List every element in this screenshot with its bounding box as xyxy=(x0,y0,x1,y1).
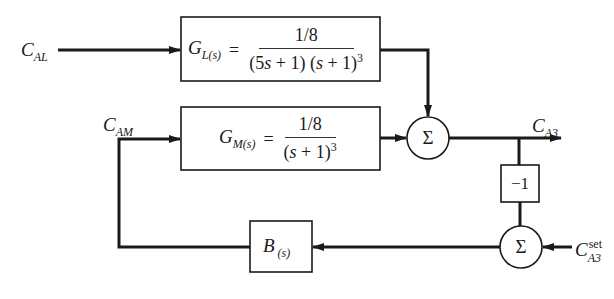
gl-numerator: 1/8 xyxy=(259,26,354,49)
gm-name: GM(s) xyxy=(219,126,255,152)
gl-name: GL(s) xyxy=(188,37,221,63)
block-b-label: B(s) xyxy=(263,236,290,259)
arrow-gl-to-sum1 xyxy=(380,50,428,116)
sum1-symbol: Σ xyxy=(407,128,449,147)
gm-fraction: 1/8 (s + 1)3 xyxy=(282,115,339,163)
gm-equals: = xyxy=(263,129,273,150)
label-c-am: CAM xyxy=(103,115,133,138)
block-gm-transfer-function: GM(s) = 1/8 (s + 1)3 xyxy=(219,111,339,167)
gl-equals: = xyxy=(229,40,239,61)
gl-denominator: (5s + 1) (s + 1)3 xyxy=(247,49,365,74)
neg-gain-label: −1 xyxy=(501,174,539,194)
block-gl-transfer-function: GL(s) = 1/8 (5s + 1) (s + 1)3 xyxy=(188,22,365,78)
gm-numerator: 1/8 xyxy=(285,115,336,138)
label-c-al: CAL xyxy=(21,40,48,63)
label-c-a3-set: CA3set xyxy=(575,240,608,259)
gl-fraction: 1/8 (5s + 1) (s + 1)3 xyxy=(247,26,365,74)
gm-denominator: (s + 1)3 xyxy=(282,138,339,163)
label-c-a3: CA3 xyxy=(532,116,558,139)
sum2-symbol: Σ xyxy=(500,237,542,256)
